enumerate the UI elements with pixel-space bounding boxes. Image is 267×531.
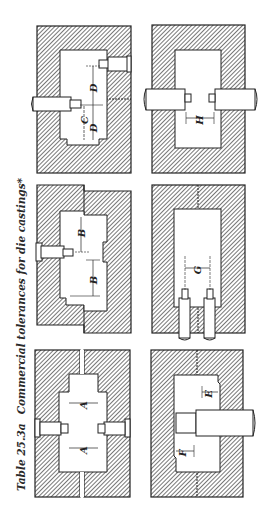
dimension-label-d-upper: D [88,83,99,93]
dimension-label-d-lower: D [88,123,99,133]
figure-g: G [152,185,245,340]
figure-b: B B [36,185,131,333]
figure-h: H [144,25,257,173]
figure-c-d: D C D [32,26,132,173]
table-caption: Table 25.3aCommercial tolerances for die… [16,178,27,491]
dimension-label-b-upper: B [76,229,87,238]
dimension-label-a-upper: A [78,401,89,410]
figure-e-f: E F [151,350,255,497]
table-title: Commercial tolerances for die castings* [15,178,27,414]
dimension-label-h: H [194,115,205,126]
dimension-label-a-lower: A [78,446,89,455]
dimension-label-g: G [192,265,203,274]
table-number: Table 25.3a [15,423,27,491]
dimension-label-f: F [177,449,188,458]
dimension-label-b-lower: B [88,276,99,285]
dimension-label-c: C [79,116,90,124]
figure-a: A A [35,350,130,497]
dimension-label-e: E [203,390,214,399]
die-casting-tolerance-figure: D C D H B B [0,0,267,531]
